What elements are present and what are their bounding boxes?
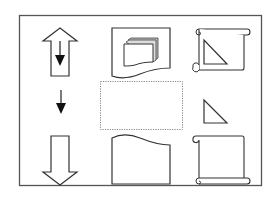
wavy-top-shape-icon[interactable] [112, 135, 170, 184]
hollow-down-arrow-icon[interactable] [43, 136, 77, 185]
multi-page-document-icon[interactable] [112, 28, 170, 78]
small-down-arrow-icon[interactable] [56, 90, 66, 114]
small-triangle-icon[interactable] [204, 100, 227, 123]
dotted-selection-box[interactable] [101, 82, 183, 130]
scroll-with-triangle-icon[interactable] [193, 29, 250, 72]
icon-grid-diagram [0, 0, 272, 206]
up-arrow-with-inner-down-arrow-icon[interactable] [43, 28, 77, 76]
blank-scroll-icon[interactable] [193, 136, 250, 184]
